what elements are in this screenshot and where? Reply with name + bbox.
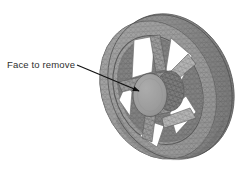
hub-face-to-remove[interactable]: [133, 74, 167, 117]
annotation-label-face-to-remove: Face to remove: [7, 59, 75, 71]
wheel-model-illustration: [0, 0, 236, 170]
figure-canvas: Face to remove: [0, 0, 236, 170]
